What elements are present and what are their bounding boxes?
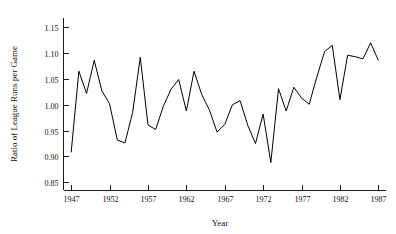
data-series-line — [71, 43, 378, 163]
x-tick-label: 1977 — [295, 195, 311, 204]
y-axis-label: Ratio of League Runs per Game — [9, 46, 19, 162]
chart-figure: 0.850.900.951.001.051.101.15 19471952195… — [0, 0, 396, 234]
y-tick-label: 0.95 — [45, 128, 59, 137]
x-tick-labels: 194719521957196219671972197719821987 — [64, 195, 387, 204]
y-tick-labels: 0.850.900.951.001.051.101.15 — [45, 24, 59, 188]
x-tick-label: 1987 — [371, 195, 387, 204]
x-tick-label: 1947 — [64, 195, 80, 204]
y-tick-label: 0.90 — [45, 153, 59, 162]
y-tick-marks — [64, 28, 69, 183]
x-tick-label: 1952 — [103, 195, 119, 204]
x-axis-label: Year — [212, 218, 229, 228]
y-tick-label: 1.05 — [45, 76, 59, 85]
x-tick-label: 1957 — [141, 195, 157, 204]
y-tick-label: 0.85 — [45, 179, 59, 188]
y-tick-label: 1.10 — [45, 50, 59, 59]
y-tick-label: 1.00 — [45, 102, 59, 111]
x-tick-label: 1962 — [179, 195, 195, 204]
y-tick-label: 1.15 — [45, 24, 59, 33]
x-tick-label: 1982 — [333, 195, 349, 204]
x-tick-marks — [72, 185, 379, 190]
line-chart: 0.850.900.951.001.051.101.15 19471952195… — [0, 0, 396, 234]
x-tick-label: 1967 — [218, 195, 234, 204]
x-tick-label: 1972 — [256, 195, 272, 204]
